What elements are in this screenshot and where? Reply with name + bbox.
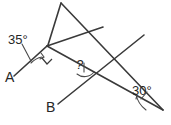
point-label-b: B [46,100,55,114]
segment-p-to-q [47,46,163,110]
right-angle-marker [42,58,52,64]
figure-canvas [0,0,171,125]
point-label-a: A [5,70,14,84]
unknown-angle-label: ? [76,58,83,71]
angle-label-30: 30° [132,84,152,97]
segment-upper-cross [47,27,103,46]
angle-label-35: 35° [8,33,28,46]
geometry-figure: 35° 30° A B ? [0,0,171,125]
arc-unknown-angle [77,72,94,77]
